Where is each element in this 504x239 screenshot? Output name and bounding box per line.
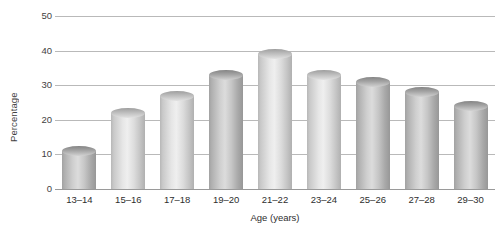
- bar-top-ellipse: [307, 70, 341, 80]
- x-tick-label: 29–30: [446, 194, 495, 206]
- bar-body: [356, 82, 390, 189]
- x-tick-label: 21–22: [251, 194, 300, 206]
- y-tick-label: 30: [24, 80, 52, 90]
- bar-body: [454, 106, 488, 189]
- axis-baseline: [55, 189, 495, 190]
- bar: [160, 91, 194, 189]
- bar-body: [62, 151, 96, 189]
- bar-body: [160, 96, 194, 189]
- bar-top-ellipse: [160, 91, 194, 101]
- bar: [405, 87, 439, 189]
- plot-area: [55, 16, 495, 189]
- x-axis-tick-labels: 13–1415–1617–1819–2021–2223–2425–2627–28…: [55, 194, 495, 208]
- bar: [209, 70, 243, 189]
- bar-top-ellipse: [454, 101, 488, 111]
- bar: [258, 49, 292, 189]
- x-tick-label: 23–24: [299, 194, 348, 206]
- x-axis-title: Age (years): [55, 212, 495, 223]
- bar-body: [307, 75, 341, 189]
- bar-top-ellipse: [209, 70, 243, 80]
- x-tick-label: 19–20: [202, 194, 251, 206]
- bar-body: [405, 92, 439, 189]
- y-tick-label: 20: [24, 115, 52, 125]
- y-tick-label: 0: [24, 184, 52, 194]
- y-tick-label: 50: [24, 11, 52, 21]
- bar-chart: Percentage 50 40 30 20 10 0 13–1415–1617…: [0, 0, 504, 239]
- y-tick-label: 10: [24, 149, 52, 159]
- bar: [62, 146, 96, 189]
- bar-top-ellipse: [356, 77, 390, 87]
- x-tick-label: 15–16: [104, 194, 153, 206]
- bar-body: [209, 75, 243, 189]
- bar-series: [55, 16, 495, 189]
- bar-body: [258, 54, 292, 189]
- bar: [356, 77, 390, 189]
- bar-top-ellipse: [405, 87, 439, 97]
- bar: [454, 101, 488, 189]
- x-tick-label: 27–28: [397, 194, 446, 206]
- bar: [307, 70, 341, 189]
- x-tick-label: 25–26: [348, 194, 397, 206]
- x-tick-label: 17–18: [153, 194, 202, 206]
- bar: [111, 108, 145, 189]
- x-tick-label: 13–14: [55, 194, 104, 206]
- bar-top-ellipse: [111, 108, 145, 118]
- y-tick-label: 40: [24, 46, 52, 56]
- y-axis-tick-labels: 50 40 30 20 10 0: [24, 16, 52, 189]
- y-axis-title: Percentage: [6, 62, 20, 172]
- bar-body: [111, 113, 145, 189]
- bar-top-ellipse: [258, 49, 292, 59]
